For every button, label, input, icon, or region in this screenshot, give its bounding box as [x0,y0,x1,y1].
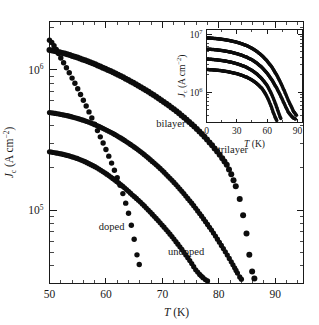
data-point [137,262,142,267]
x-tick-label: 50 [44,288,56,300]
data-point [249,269,255,275]
plot-canvas: 5060708090105106T (K)Jc (A cm−2) dopedun… [0,0,319,325]
data-point [240,212,246,218]
inset-y-tick-label: 107 [190,28,204,40]
data-point [126,210,131,215]
inset-data-point [294,117,298,121]
y-tick-label: 105 [28,203,44,217]
inset-x-tick-label: 60 [262,126,272,136]
data-point [83,103,88,108]
x-tick-label: 60 [100,288,112,300]
data-point [228,171,234,177]
data-point [231,177,237,183]
data-point [134,252,139,257]
inset-panel: 0306090106107T (K)Jc (A cm−2) [175,28,302,150]
data-point [72,81,77,86]
series-undoped [47,149,210,283]
data-point [109,160,114,165]
data-point [67,70,72,75]
data-point [131,237,136,242]
curve-label-undoped: undoped [168,246,205,257]
inset-x-tick-label: 0 [204,126,209,136]
data-point [106,153,111,158]
x-tick-label: 90 [270,288,282,300]
inset-data-point [295,114,299,118]
inset-x-tick-label: 30 [232,126,242,136]
x-tick-label: 70 [157,288,169,300]
data-point [61,60,66,65]
data-point [103,147,108,152]
data-point [251,276,257,282]
data-point [205,278,210,283]
data-point [64,65,69,70]
curve-label-bilayer: bilayer [156,118,186,129]
inset-data-point [275,119,279,123]
data-point [81,98,86,103]
inset-data-point [279,117,283,121]
inset-x-axis-title: T (K) [244,139,265,150]
data-point [129,223,134,228]
data-point [69,75,74,80]
data-point [78,92,83,97]
inset-y-axis-title: Jc (A cm−2) [175,54,188,97]
figure-panel: 5060708090105106T (K)Jc (A cm−2) dopedun… [0,0,319,325]
series-bilayer [47,110,244,282]
curve-label-doped: doped [99,221,125,232]
data-point [112,168,117,173]
data-point [246,252,252,258]
data-point [98,134,103,139]
data-point [75,86,80,91]
x-tick-label: 80 [213,288,225,300]
data-point [239,277,244,282]
data-point [123,200,128,205]
data-point [58,55,63,60]
data-point [120,191,125,196]
svg-text:Jc (A cm−2): Jc (A cm−2) [175,54,188,97]
inset-y-tick-label: 106 [190,86,204,98]
data-point [86,109,91,114]
y-axis-title: Jc (A cm−2) [2,127,18,179]
y-tick-label: 106 [28,62,44,76]
data-point [100,140,105,145]
data-point [237,196,243,202]
x-axis-title: T (K) [164,306,189,319]
svg-text:Jc (A cm−2): Jc (A cm−2) [2,127,18,179]
data-point [243,231,249,237]
data-point [233,183,239,189]
inset-x-tick-label: 90 [293,126,303,136]
